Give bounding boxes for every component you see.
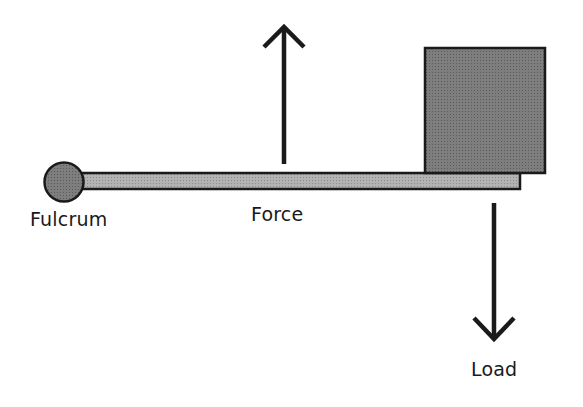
load-box bbox=[425, 48, 545, 173]
force-arrow-icon bbox=[264, 27, 304, 164]
fulcrum-circle bbox=[45, 163, 84, 202]
fulcrum-label: Fulcrum bbox=[30, 208, 107, 230]
load-label: Load bbox=[471, 358, 517, 380]
load-arrow-icon bbox=[474, 203, 514, 339]
force-label: Force bbox=[251, 203, 303, 225]
lever-bar bbox=[78, 173, 520, 189]
